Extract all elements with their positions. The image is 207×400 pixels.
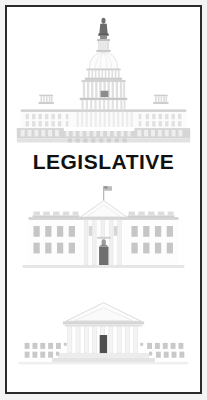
section-judicial: JUDICIAL — [7, 297, 200, 394]
white-house-icon — [7, 179, 200, 274]
capitol-building-icon — [7, 7, 200, 152]
label-legislative: LEGISLATIVE — [7, 151, 200, 172]
supreme-court-icon — [7, 297, 200, 375]
section-executive: EXECUTIVE — [7, 179, 200, 297]
poster: LEGISLATIVE — [0, 0, 207, 400]
section-legislative: LEGISLATIVE — [7, 7, 200, 179]
poster-frame: LEGISLATIVE — [5, 5, 202, 394]
